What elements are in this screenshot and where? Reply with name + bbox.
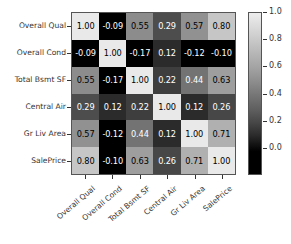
heatmap-cell: 0.26 xyxy=(153,147,180,174)
colorbar-tick-label: 0.8 xyxy=(269,35,282,43)
heatmap-cell: -0.09 xyxy=(99,13,126,40)
heatmap-cell: 0.44 xyxy=(126,120,153,147)
heatmap-cell: 0.44 xyxy=(181,67,208,94)
heatmap-cell: 0.12 xyxy=(153,40,180,67)
colorbar-tick-mark xyxy=(263,39,267,40)
heatmap-cell: -0.12 xyxy=(181,40,208,67)
heatmap-cell: 0.55 xyxy=(126,13,153,40)
colorbar xyxy=(248,12,262,175)
y-tick-label: Overall Cond xyxy=(0,49,66,57)
colorbar-tick-mark xyxy=(263,66,267,67)
heatmap-cell: 0.26 xyxy=(208,94,235,121)
colorbar-tick-mark xyxy=(263,12,267,13)
heatmap-cell: 0.57 xyxy=(72,120,99,147)
heatmap-cell: 0.63 xyxy=(208,67,235,94)
heatmap-cell: -0.10 xyxy=(208,40,235,67)
heatmap-cell: -0.09 xyxy=(72,40,99,67)
colorbar-tick-label: 0.4 xyxy=(269,90,282,98)
y-tick-label: Overall Qual xyxy=(0,22,66,30)
colorbar-tick-mark xyxy=(263,148,267,149)
colorbar-tick-label: 1.0 xyxy=(269,8,282,16)
colorbar-tick-label: 0.0 xyxy=(269,144,282,152)
heatmap-cell: 0.71 xyxy=(181,147,208,174)
heatmap-cell: 1.00 xyxy=(99,40,126,67)
heatmap-cell: 0.80 xyxy=(208,13,235,40)
heatmap-cell: 1.00 xyxy=(126,67,153,94)
heatmap-cell: 1.00 xyxy=(208,147,235,174)
heatmap-cell: 0.12 xyxy=(181,94,208,121)
colorbar-tick-label: 0.2 xyxy=(269,117,282,125)
heatmap-cell: 0.55 xyxy=(72,67,99,94)
heatmap-cell: 0.63 xyxy=(126,147,153,174)
heatmap-cell: 0.12 xyxy=(153,120,180,147)
y-tick-label: Total Bsmt SF xyxy=(0,76,66,84)
colorbar-gradient xyxy=(249,13,261,174)
correlation-heatmap-figure: Overall QualOverall CondTotal Bsmt SFCen… xyxy=(0,0,291,244)
heatmap-cell: 0.22 xyxy=(153,67,180,94)
y-axis-labels: Overall QualOverall CondTotal Bsmt SFCen… xyxy=(0,12,66,175)
heatmap-cell: 1.00 xyxy=(153,94,180,121)
heatmap-cell: 0.29 xyxy=(153,13,180,40)
heatmap-cell: 0.80 xyxy=(72,147,99,174)
heatmap-grid: 1.00-0.090.550.290.570.80-0.091.00-0.170… xyxy=(71,12,236,175)
colorbar-tick-label: 0.6 xyxy=(269,62,282,70)
heatmap-cell: 0.57 xyxy=(181,13,208,40)
heatmap-cell: -0.12 xyxy=(99,120,126,147)
y-tick-label: Central Air xyxy=(0,103,66,111)
heatmap-cell: 1.00 xyxy=(181,120,208,147)
heatmap-cell: 0.71 xyxy=(208,120,235,147)
heatmap-cell: 1.00 xyxy=(72,13,99,40)
heatmap-cell: -0.17 xyxy=(99,67,126,94)
x-axis-labels: Overall QualOverall CondTotal Bsmt SFCen… xyxy=(0,176,291,244)
colorbar-tick-mark xyxy=(263,94,267,95)
heatmap-cell: 0.12 xyxy=(99,94,126,121)
y-tick-label: Gr Liv Area xyxy=(0,130,66,138)
colorbar-tick-mark xyxy=(263,121,267,122)
heatmap-cell: 0.29 xyxy=(72,94,99,121)
heatmap-cell: -0.10 xyxy=(99,147,126,174)
heatmap-cell: -0.17 xyxy=(126,40,153,67)
heatmap-cell: 0.22 xyxy=(126,94,153,121)
y-tick-label: SalePrice xyxy=(0,157,66,165)
